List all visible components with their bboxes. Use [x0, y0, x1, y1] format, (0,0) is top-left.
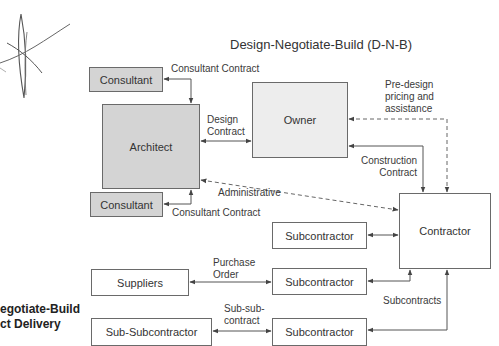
contractor-box: Contractor [399, 193, 491, 269]
consultant-top-box: Consultant [89, 67, 163, 92]
sub-subcontractor-label: Sub-Subcontractor [106, 326, 198, 338]
design-contract-label: Design Contract [207, 114, 245, 138]
predesign-line-2: pricing and [385, 91, 434, 103]
design-contract-line-2: Contract [207, 126, 245, 138]
construction-contract-line-2: Contract [361, 167, 417, 179]
consultant-contract-bottom-label: Consultant Contract [172, 207, 260, 219]
subcontractor-2-label: Subcontractor [285, 276, 353, 288]
sub-sub-contract-line-2: contract [224, 315, 265, 327]
consultant-top-label: Consultant [100, 74, 153, 86]
predesign-label: Pre-design pricing and assistance [385, 79, 434, 115]
sub-sub-contract-line-1: Sub-sub- [224, 303, 265, 315]
predesign-line-3: assistance [385, 103, 434, 115]
design-contract-line-1: Design [207, 114, 245, 126]
purchase-order-line-2: Order [213, 269, 255, 281]
subcontractor-3-box: Subcontractor [272, 318, 367, 346]
sub-subcontractor-box: Sub-Subcontractor [91, 318, 212, 346]
subcontractor-2-box: Subcontractor [272, 268, 367, 295]
administrative-label: Administrative [218, 187, 281, 199]
architect-box: Architect [102, 104, 200, 189]
consultant-bottom-label: Consultant [100, 199, 153, 211]
subcontractor-3-label: Subcontractor [285, 326, 353, 338]
purchase-order-label: Purchase Order [213, 257, 255, 281]
sub-sub-contract-label: Sub-sub- contract [224, 303, 265, 327]
consultant-bottom-box: Consultant [90, 192, 163, 217]
subcontracts-label: Subcontracts [383, 295, 441, 307]
construction-contract-line-1: Construction [361, 155, 417, 167]
construction-contract-label: Construction Contract [361, 155, 417, 179]
subcontractor-1-box: Subcontractor [272, 222, 367, 249]
predesign-line-1: Pre-design [385, 79, 434, 91]
contractor-label: Contractor [419, 225, 470, 237]
consultant-contract-top-label: Consultant Contract [171, 63, 259, 75]
suppliers-label: Suppliers [117, 277, 163, 289]
suppliers-box: Suppliers [91, 269, 189, 296]
subcontractor-1-label: Subcontractor [285, 230, 353, 242]
owner-label: Owner [284, 114, 316, 126]
owner-box: Owner [252, 82, 348, 158]
architect-label: Architect [130, 141, 173, 153]
purchase-order-line-1: Purchase [213, 257, 255, 269]
